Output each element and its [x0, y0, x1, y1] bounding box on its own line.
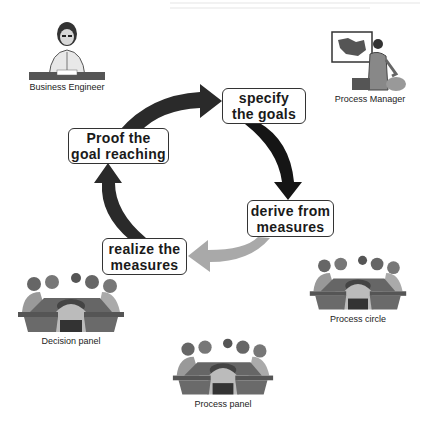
actor-label: Process circle: [306, 314, 410, 324]
meeting-table-icon: [308, 254, 408, 314]
actor-label: Process Manager: [320, 94, 420, 104]
step-label: specify: [223, 90, 305, 106]
step-realize-measures: realize the measures: [102, 238, 187, 275]
step-label: the goals: [223, 106, 305, 122]
step-label: goal reaching: [69, 146, 168, 162]
person-at-desk-icon: [27, 18, 107, 82]
actor-process-panel: Process panel: [168, 337, 278, 409]
presenter-with-map-icon: [330, 30, 410, 94]
arrow-realize-to-proof: [94, 163, 146, 240]
actor-decision-panel: Decision panel: [16, 272, 126, 346]
actor-business-engineer: Business Engineer: [22, 18, 112, 92]
actor-process-circle: Process circle: [306, 254, 410, 324]
step-label: Proof the: [69, 130, 168, 146]
step-label: derive from: [248, 203, 333, 219]
arrow-proof-to-specify: [120, 84, 222, 132]
actor-label: Business Engineer: [22, 82, 112, 92]
step-label: measures: [103, 257, 186, 273]
step-proof-goal-reaching: Proof the goal reaching: [68, 128, 169, 164]
step-label: measures: [248, 219, 333, 235]
arrow-specify-to-derive: [245, 122, 302, 200]
meeting-table-icon: [171, 337, 275, 399]
step-derive-measures: derive from measures: [247, 200, 334, 237]
actor-process-manager: Process Manager: [320, 30, 420, 104]
arrow-derive-to-realize: [188, 237, 270, 272]
step-specify-goals: specify the goals: [222, 88, 306, 124]
actor-label: Decision panel: [16, 336, 126, 346]
meeting-table-icon: [16, 272, 126, 336]
actor-label: Process panel: [168, 399, 278, 409]
step-label: realize the: [103, 241, 186, 257]
